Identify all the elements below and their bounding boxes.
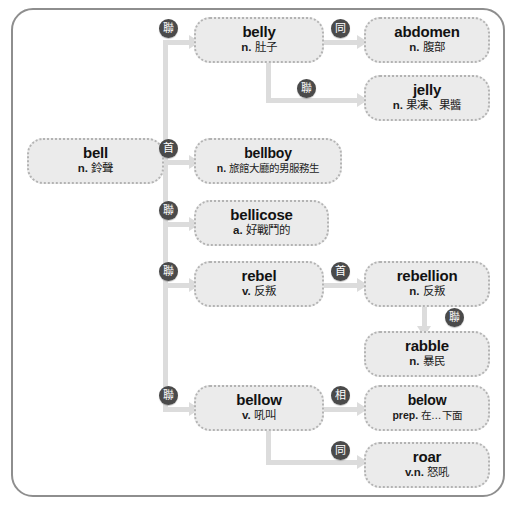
connector-belly-jelly-vertical <box>266 62 271 101</box>
node-rabble-word: rabble <box>405 337 449 354</box>
node-bellow-gloss: v. 吼叫 <box>242 409 276 423</box>
connector-trunk-bellow <box>163 407 192 412</box>
node-belly-pos: n. <box>241 41 251 53</box>
node-roar-pos: v.n. <box>405 466 424 478</box>
node-bellow[interactable]: bellow v. 吼叫 <box>194 385 324 431</box>
connector-bellow-roar-horizontal <box>266 460 361 465</box>
node-jelly-meaning: 果凍、果醬 <box>406 99 461 111</box>
badge-bell-to-rebel: 聯 <box>159 262 178 281</box>
badge-rebel-to-rebellion: 首 <box>331 262 350 281</box>
node-bellboy-gloss: n. 旅館大廳的男服務生 <box>217 162 319 175</box>
badge-bell-to-bellow: 聯 <box>159 386 178 405</box>
node-roar-gloss: v.n. 怒吼 <box>405 466 449 480</box>
connector-rebel-rebellion <box>324 283 359 288</box>
node-bellicose[interactable]: bellicose a. 好戰鬥的 <box>194 200 329 246</box>
node-rebel[interactable]: rebel v. 反叛 <box>194 261 324 307</box>
node-bellicose-pos: a. <box>233 224 243 236</box>
node-bellicose-meaning: 好戰鬥的 <box>246 224 290 236</box>
node-abdomen-word: abdomen <box>394 23 459 40</box>
node-jelly-pos: n. <box>393 99 403 111</box>
node-bellicose-gloss: a. 好戰鬥的 <box>233 224 290 238</box>
badge-bell-to-bellboy: 首 <box>159 139 178 158</box>
node-rebel-gloss: v. 反叛 <box>242 285 276 299</box>
node-rebellion-gloss: n. 反叛 <box>409 285 444 299</box>
connector-trunk-rebel <box>163 283 192 288</box>
node-bellow-meaning: 吼叫 <box>254 409 276 421</box>
node-bell-meaning: 鈴聲 <box>91 162 113 174</box>
node-abdomen-gloss: n. 腹部 <box>409 41 444 55</box>
node-abdomen-pos: n. <box>409 41 419 53</box>
connector-bellow-below <box>324 407 359 412</box>
node-rabble[interactable]: rabble n. 暴民 <box>364 331 490 377</box>
node-roar[interactable]: roar v.n. 怒吼 <box>364 442 490 488</box>
node-rebel-pos: v. <box>242 285 251 297</box>
node-roar-word: roar <box>413 448 441 465</box>
badge-bellow-to-below: 相 <box>331 386 350 405</box>
node-bell-word: bell <box>83 144 108 161</box>
badge-belly-to-abdomen: 同 <box>331 19 350 38</box>
node-rebellion-word: rebellion <box>397 267 458 284</box>
node-rebel-meaning: 反叛 <box>254 285 276 297</box>
node-below[interactable]: below prep. 在…下面 <box>364 385 490 431</box>
badge-bell-to-bellicose: 聯 <box>159 201 178 220</box>
connector-bellow-roar-vertical <box>266 429 271 463</box>
connector-belly-abdomen <box>324 40 359 45</box>
node-bellboy-pos: n. <box>217 162 226 174</box>
badge-bell-to-belly: 聯 <box>159 19 178 38</box>
node-abdomen-meaning: 腹部 <box>423 41 445 53</box>
node-bellow-word: bellow <box>236 391 281 408</box>
node-rabble-gloss: n. 暴民 <box>409 355 444 369</box>
node-roar-meaning: 怒吼 <box>427 466 449 478</box>
node-belly-gloss: n. 肚子 <box>241 41 276 55</box>
node-below-pos: prep. <box>392 409 418 421</box>
node-bellicose-word: bellicose <box>230 206 292 223</box>
node-below-word: below <box>408 392 447 408</box>
node-rebel-word: rebel <box>242 267 277 284</box>
node-jelly[interactable]: jelly n. 果凍、果醬 <box>364 75 490 121</box>
node-rabble-pos: n. <box>409 355 419 367</box>
node-rebellion[interactable]: rebellion n. 反叛 <box>364 261 490 307</box>
node-bell-gloss: n. 鈴聲 <box>78 162 113 176</box>
node-jelly-gloss: n. 果凍、果醬 <box>393 99 461 113</box>
badge-belly-to-jelly: 聯 <box>297 79 316 98</box>
node-rebellion-meaning: 反叛 <box>423 285 445 297</box>
node-bellboy-word: bellboy <box>244 145 292 161</box>
node-rabble-meaning: 暴民 <box>423 355 445 367</box>
connector-trunk-belly <box>163 40 192 45</box>
node-below-meaning: 在…下面 <box>421 409 462 421</box>
node-belly-word: belly <box>242 23 275 40</box>
node-jelly-word: jelly <box>413 81 441 98</box>
node-bellow-pos: v. <box>242 409 251 421</box>
mindmap-canvas: bell n. 鈴聲 belly n. 肚子 abdomen n. 腹部 jel… <box>0 0 519 509</box>
connector-belly-jelly-horizontal <box>266 98 361 103</box>
node-rebellion-pos: n. <box>409 285 419 297</box>
node-bellboy-meaning: 旅館大廳的男服務生 <box>229 162 319 174</box>
node-bellboy[interactable]: bellboy n. 旅館大廳的男服務生 <box>194 138 342 184</box>
connector-trunk-bellicose <box>163 222 192 227</box>
node-below-gloss: prep. 在…下面 <box>392 409 461 422</box>
node-belly-meaning: 肚子 <box>255 41 277 53</box>
badge-bellow-to-roar: 同 <box>331 441 350 460</box>
node-bell[interactable]: bell n. 鈴聲 <box>27 138 164 184</box>
badge-rebellion-to-rabble: 聯 <box>445 308 464 327</box>
node-belly[interactable]: belly n. 肚子 <box>194 17 324 63</box>
node-abdomen[interactable]: abdomen n. 腹部 <box>364 17 490 63</box>
node-bell-pos: n. <box>78 162 88 174</box>
